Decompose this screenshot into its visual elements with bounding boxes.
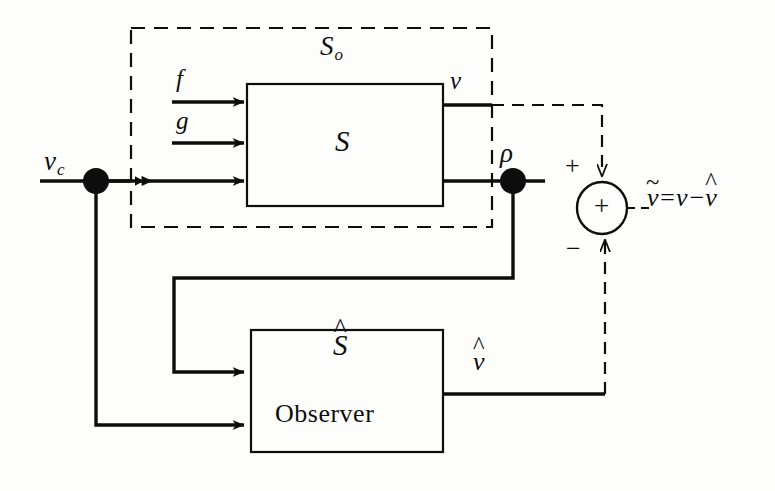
label-sum-interior-sign: + [594,193,609,220]
label-observer-symbol: ^S [333,331,348,360]
label-observer-text: Observer [275,401,374,427]
label-f: f [176,66,183,91]
label-so-subscript: o [335,45,344,64]
equation-operator: − [688,183,706,212]
block-diagram-figure: vc So f g S v ρ ^S Observer ^v + − + ~v=… [0,0,775,491]
diagram-canvas [0,0,775,491]
label-g: g [176,108,189,133]
label-vc-subscript: c [57,160,65,179]
label-sum-minus-input: − [566,236,581,262]
tilde-accent-icon: ~ [646,170,659,195]
label-rho: ρ [500,140,513,167]
label-error-equation: ~v=v−^v [647,185,717,211]
hat-accent-icon: ^ [705,170,717,195]
hat-accent-icon: ^ [473,334,485,359]
equation-equals: = [659,183,677,212]
label-plant-block: S [335,127,350,156]
label-v-output: v [450,68,461,93]
label-vc: vc [44,148,65,178]
signal-path-vc-to-observer [96,181,244,425]
equation-rhs-first: v [676,183,688,212]
label-sum-plus-input: + [565,153,580,179]
label-vhat: ^v [473,349,485,375]
label-outer-boundary: So [320,33,343,63]
hat-accent-icon: ^ [334,314,347,342]
